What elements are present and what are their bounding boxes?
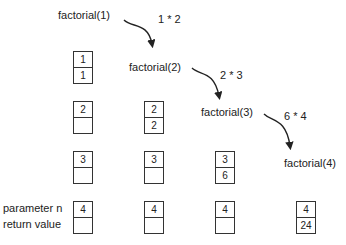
stack-frame: 36 [215, 151, 235, 184]
product-label: 1 * 2 [158, 13, 181, 25]
call-label: factorial(3) [201, 106, 253, 118]
return-value-cell [74, 217, 92, 233]
stack-frame: 3 [144, 151, 164, 184]
return-value-cell: 24 [297, 217, 315, 233]
return-value-cell [216, 217, 234, 233]
parameter-n-cell: 3 [145, 152, 163, 167]
arrow-1-to-2 [124, 20, 152, 44]
call-label: factorial(4) [284, 157, 336, 169]
return-value-cell: 1 [74, 67, 92, 83]
parameter-n-cell: 3 [216, 152, 234, 167]
return-value-cell: 2 [145, 117, 163, 133]
legend-parameter-n: parameter n [3, 202, 62, 214]
call-label: factorial(1) [58, 9, 110, 21]
return-value-cell [74, 167, 92, 183]
stack-frame: 424 [296, 201, 316, 234]
product-label: 2 * 3 [220, 69, 243, 81]
stack-frame: 4 [215, 201, 235, 234]
parameter-n-cell: 4 [145, 202, 163, 217]
arrow-2-to-3 [192, 68, 219, 96]
legend-return-value: return value [3, 218, 61, 230]
parameter-n-cell: 4 [297, 202, 315, 217]
return-value-cell [145, 217, 163, 233]
parameter-n-cell: 1 [74, 52, 92, 67]
product-label: 6 * 4 [284, 110, 307, 122]
stack-frame: 22 [144, 101, 164, 134]
stack-frame: 4 [73, 201, 93, 234]
stack-frame: 4 [144, 201, 164, 234]
return-value-cell [145, 167, 163, 183]
stack-frame: 3 [73, 151, 93, 184]
call-label: factorial(2) [129, 61, 181, 73]
parameter-n-cell: 2 [145, 102, 163, 117]
return-value-cell [74, 117, 92, 133]
parameter-n-cell: 3 [74, 152, 92, 167]
parameter-n-cell: 4 [216, 202, 234, 217]
parameter-n-cell: 2 [74, 102, 92, 117]
return-value-cell: 6 [216, 167, 234, 183]
parameter-n-cell: 4 [74, 202, 92, 217]
stack-frame: 2 [73, 101, 93, 134]
stack-frame: 11 [73, 51, 93, 84]
